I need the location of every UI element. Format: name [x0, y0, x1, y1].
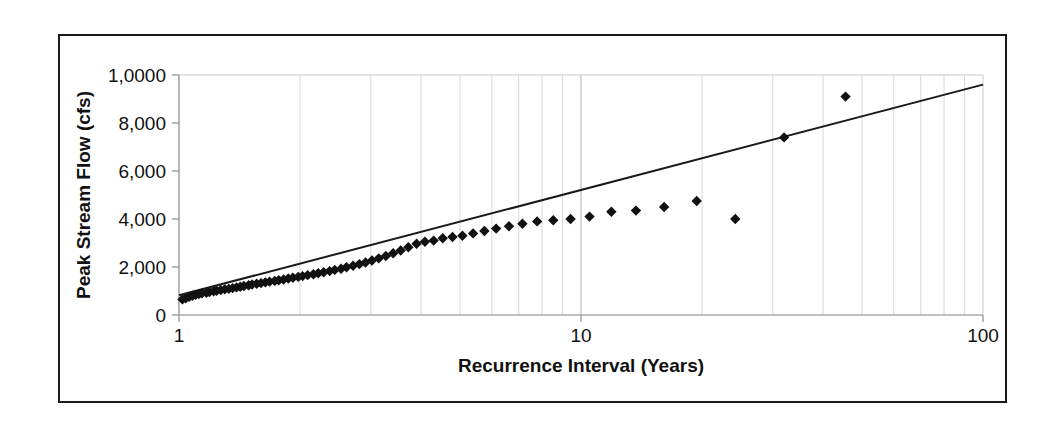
x-tick-label: 10 — [570, 325, 591, 346]
y-axis-title: Peak Stream Flow (cfs) — [73, 91, 94, 299]
x-axis-tick-labels: 110100 — [174, 325, 999, 346]
x-tick-label: 1 — [174, 325, 185, 346]
y-axis-tick-labels: 1,00008,0006,0004,0002,0000 — [108, 65, 166, 326]
x-axis-ticks — [179, 315, 983, 322]
y-tick-label: 6,000 — [118, 161, 166, 182]
x-tick-label: 100 — [967, 325, 999, 346]
y-tick-label: 4,000 — [118, 209, 166, 230]
y-tick-label: 2,000 — [118, 257, 166, 278]
y-tick-label: 1,0000 — [108, 65, 166, 86]
y-tick-label: 0 — [155, 305, 166, 326]
chart-outer-border: 1,00008,0006,0004,0002,0000 110100 Peak … — [58, 34, 1007, 403]
figure-root: 1,00008,0006,0004,0002,0000 110100 Peak … — [0, 0, 1056, 433]
y-axis-ticks — [172, 75, 179, 315]
y-tick-label: 8,000 — [118, 113, 166, 134]
x-axis-title: Recurrence Interval (Years) — [458, 355, 704, 376]
chart-canvas: 1,00008,0006,0004,0002,0000 110100 Peak … — [60, 36, 1005, 401]
